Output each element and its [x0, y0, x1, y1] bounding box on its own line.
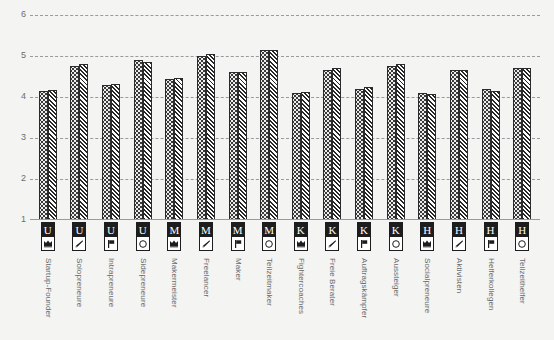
category-icon: H	[412, 222, 444, 258]
bar-hatch	[174, 78, 183, 220]
bar-group	[64, 15, 96, 220]
letter-box-k-icon: K	[389, 222, 403, 237]
crown-icon	[420, 236, 434, 251]
bar-group	[475, 15, 507, 220]
category-label-text: Maker	[233, 258, 242, 281]
bar-group	[348, 15, 380, 220]
crown-icon	[167, 236, 181, 251]
bar-group	[412, 15, 444, 220]
bar-hatch	[364, 87, 373, 220]
category-label: Aussteiger	[380, 258, 412, 338]
crown-icon	[41, 236, 55, 251]
category-icon: K	[380, 222, 412, 258]
letter-box-m-icon: M	[231, 222, 245, 237]
bar-hatch	[459, 70, 468, 220]
category-label-text: Fightercoaches	[296, 258, 305, 314]
category-label: Maker	[222, 258, 254, 338]
category-icon: H	[443, 222, 475, 258]
circle-icon	[136, 236, 150, 251]
category-label-text: Freelancer	[201, 258, 210, 297]
category-icon: U	[95, 222, 127, 258]
y-axis-tick-label: 1	[8, 214, 26, 224]
bar-group	[190, 15, 222, 220]
pen-icon	[199, 236, 213, 251]
bar-group	[159, 15, 191, 220]
flag-icon	[231, 236, 245, 251]
circle-icon	[389, 236, 403, 251]
bar-hatch	[301, 92, 310, 220]
bar-dots	[229, 72, 238, 220]
category-label-text: Sidepreneure	[138, 258, 147, 307]
category-label-row: Startup-FounderSolopreneureIntrapreneure…	[30, 258, 540, 338]
category-icon: M	[253, 222, 285, 258]
category-label: Solopreneure	[64, 258, 96, 338]
bar-hatch	[48, 90, 57, 220]
letter-box-u-icon: U	[41, 222, 55, 237]
bar-dots	[387, 66, 396, 220]
flag-icon	[484, 236, 498, 251]
letter-box-h-icon: H	[420, 222, 434, 237]
bar-hatch	[269, 50, 278, 220]
bar-dots	[292, 93, 301, 220]
category-icon: M	[190, 222, 222, 258]
category-label-text: Startup-Founder	[43, 258, 52, 318]
category-label-text: Freie Berater	[328, 258, 337, 306]
category-label: Freie Berater	[317, 258, 349, 338]
category-label: Fightercoaches	[285, 258, 317, 338]
bar-hatch	[143, 62, 152, 220]
y-axis-tick-label: 5	[8, 50, 26, 60]
category-label: Startup-Founder	[32, 258, 64, 338]
category-icon: U	[127, 222, 159, 258]
letter-box-h-icon: H	[484, 222, 498, 237]
bar-hatch	[332, 68, 341, 220]
letter-box-u-icon: U	[136, 222, 150, 237]
category-label-text: Teilzeitmaker	[265, 258, 274, 306]
bar-dots	[482, 89, 491, 220]
chart-canvas: 123456 UUUUMMMMKKKKHHHH Startup-FounderS…	[0, 0, 554, 340]
bar-hatch	[206, 54, 215, 220]
bar-group	[127, 15, 159, 220]
letter-box-m-icon: M	[199, 222, 213, 237]
category-icon: H	[475, 222, 507, 258]
category-label-text: Socialpreneure	[423, 258, 432, 313]
y-axis-tick-label: 4	[8, 91, 26, 101]
category-label-text: Auftragskämpfer	[360, 258, 369, 318]
category-icon: M	[222, 222, 254, 258]
bar-dots	[134, 60, 143, 220]
bar-group	[380, 15, 412, 220]
bar-group	[317, 15, 349, 220]
flag-icon	[104, 236, 118, 251]
category-icon: U	[32, 222, 64, 258]
category-label: Teilzeitmaker	[253, 258, 285, 338]
category-icon: H	[506, 222, 538, 258]
bar-group	[506, 15, 538, 220]
category-label: Aktivisten	[443, 258, 475, 338]
y-axis-tick-label: 6	[8, 9, 26, 19]
bar-hatch	[491, 91, 500, 220]
letter-box-u-icon: U	[104, 222, 118, 237]
category-label: Makermeister	[159, 258, 191, 338]
bar-dots	[70, 66, 79, 220]
bar-hatch	[79, 64, 88, 220]
category-label-text: Intrapreneure	[107, 258, 116, 307]
letter-box-k-icon: K	[294, 222, 308, 237]
pen-icon	[325, 236, 339, 251]
y-axis-tick-label: 2	[8, 173, 26, 183]
bar-dots	[355, 89, 364, 220]
category-label-text: Helferkollegen	[486, 258, 495, 311]
bar-group	[95, 15, 127, 220]
crown-icon	[294, 236, 308, 251]
category-icon: K	[348, 222, 380, 258]
circle-icon	[515, 236, 529, 251]
icon-row: UUUUMMMMKKKKHHHH	[30, 222, 540, 258]
bar-groups	[30, 15, 540, 220]
letter-box-h-icon: H	[452, 222, 466, 237]
category-label: Sidepreneure	[127, 258, 159, 338]
letter-box-m-icon: M	[262, 222, 276, 237]
category-label-text: Solopreneure	[75, 258, 84, 307]
flag-icon	[357, 236, 371, 251]
category-label: Freelancer	[190, 258, 222, 338]
bar-group	[285, 15, 317, 220]
bar-dots	[418, 93, 427, 220]
pen-icon	[452, 236, 466, 251]
